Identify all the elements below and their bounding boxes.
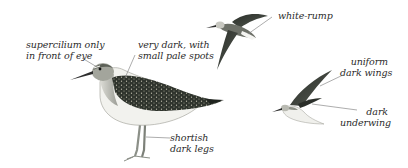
label-upperparts: very dark, with small pale spots <box>138 39 214 61</box>
label-line: dark legs <box>170 143 206 154</box>
label-line: small pale spots <box>138 50 214 61</box>
label-rump: white-rump <box>278 10 333 21</box>
label-line: shortish <box>170 132 206 143</box>
label-line: dark wings <box>340 67 388 78</box>
label-line: white-rump <box>278 10 333 21</box>
label-wings: uniform dark wings <box>340 56 388 78</box>
label-underwing: dark underwing <box>340 106 388 128</box>
bird-identification-plate: supercilium only in front of eye very da… <box>0 0 408 168</box>
leader-legs <box>146 137 170 138</box>
flying-bird-lower <box>272 70 332 124</box>
label-line: supercilium only <box>26 39 104 50</box>
label-line: very dark, with <box>138 39 214 50</box>
label-line: dark <box>340 106 388 117</box>
label-line: in front of eye <box>26 50 104 61</box>
label-line: underwing <box>340 117 388 128</box>
label-line: uniform <box>340 56 388 67</box>
flying-bird-upper <box>206 14 268 70</box>
label-supercilium: supercilium only in front of eye <box>26 39 104 61</box>
label-legs: shortish dark legs <box>170 132 206 154</box>
